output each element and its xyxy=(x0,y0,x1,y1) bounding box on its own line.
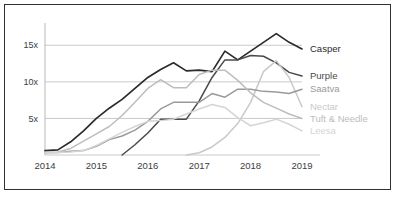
x-tick-label: 2014 xyxy=(34,160,55,171)
y-tick-label: 10x xyxy=(23,77,38,87)
series-label-leesa: Leesa xyxy=(310,125,337,136)
series-labels: CasperPurpleSaatvaNectarTuft & NeedleLee… xyxy=(310,43,368,136)
series-line-tuft-needle xyxy=(45,70,302,152)
series-label-tuft-needle: Tuft & Needle xyxy=(310,113,368,124)
x-tick-label: 2017 xyxy=(189,160,210,171)
x-tick-label: 2019 xyxy=(291,160,312,171)
series-lines xyxy=(45,34,302,155)
x-axis-ticks: 201420152016201720182019 xyxy=(34,160,312,171)
axes xyxy=(45,23,320,155)
series-label-casper: Casper xyxy=(310,43,341,54)
series-label-nectar: Nectar xyxy=(310,101,338,112)
chart-card: 5x10x15x 201420152016201720182019 Casper… xyxy=(4,4,391,190)
series-line-saatva xyxy=(45,89,302,153)
series-label-saatva: Saatva xyxy=(310,83,340,94)
line-chart: 5x10x15x 201420152016201720182019 Casper… xyxy=(5,5,392,191)
x-tick-label: 2018 xyxy=(240,160,261,171)
x-tick-label: 2016 xyxy=(137,160,158,171)
y-tick-label: 15x xyxy=(23,40,38,50)
series-line-leesa xyxy=(45,105,302,153)
series-label-purple: Purple xyxy=(310,70,337,81)
cropped-caption-sliver xyxy=(4,198,391,204)
y-tick-label: 5x xyxy=(28,114,38,124)
y-axis-ticks: 5x10x15x xyxy=(23,40,38,123)
x-tick-label: 2015 xyxy=(86,160,107,171)
